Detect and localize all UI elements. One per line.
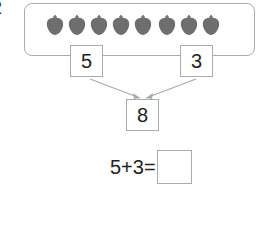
equation: 5+3= xyxy=(110,150,192,184)
whole-box: 8 xyxy=(126,99,159,131)
equation-expression: 5+3= xyxy=(110,156,156,179)
part-left-box: 5 xyxy=(70,45,103,77)
part-right-box: 3 xyxy=(180,45,213,77)
answer-input-box[interactable] xyxy=(157,150,192,184)
